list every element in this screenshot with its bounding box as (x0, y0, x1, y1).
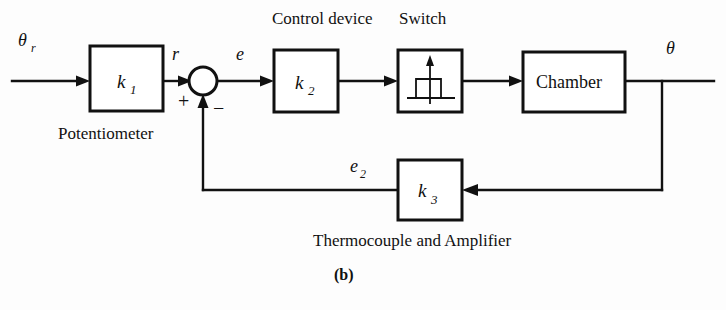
block-potentiometer[interactable]: k 1 (90, 46, 163, 111)
chamber-label: Chamber (536, 72, 602, 92)
summing-junction-circle[interactable] (189, 67, 217, 95)
summing-junction-minus-sign: − (213, 97, 224, 119)
potentiometer-caption: Potentiometer (58, 124, 154, 143)
arrowhead-into-thermocouple (462, 184, 478, 196)
potentiometer-gain-label: k (117, 71, 126, 92)
arrowhead-into-potentiometer (76, 76, 90, 87)
control-device-gain-label: k (295, 72, 304, 93)
signal-label-e2: e (350, 156, 358, 176)
potentiometer-box[interactable] (90, 46, 163, 111)
block-control-device[interactable]: k 2 (274, 50, 338, 112)
block-switch[interactable] (398, 50, 462, 112)
signal-label-input-subscript: r (31, 41, 36, 55)
switch-caption: Switch (399, 9, 447, 28)
arrowhead-into-chamber (509, 76, 523, 87)
signal-label-output: θ (666, 38, 675, 58)
block-thermocouple-amplifier[interactable]: k 3 (398, 160, 462, 220)
block-diagram-canvas: k 1 Potentiometer + − k 2 Control device (0, 0, 726, 310)
signal-label-r: r (172, 44, 180, 64)
control-device-caption: Control device (272, 9, 373, 28)
block-chamber[interactable]: Chamber (523, 52, 625, 112)
summing-junction-plus-sign: + (178, 90, 189, 112)
arrowhead-into-control-device (260, 76, 274, 87)
block-diagram-figure: k 1 Potentiometer + − k 2 Control device (0, 0, 726, 310)
thermocouple-caption: Thermocouple and Amplifier (313, 231, 512, 250)
thermocouple-gain-label: k (418, 180, 427, 201)
signal-label-input: θ (18, 30, 27, 50)
control-device-gain-subscript: 2 (308, 83, 315, 98)
thermocouple-gain-subscript: 3 (430, 192, 438, 207)
potentiometer-gain-subscript: 1 (130, 82, 137, 97)
signal-label-e2-subscript: 2 (360, 167, 366, 181)
thermocouple-box[interactable] (398, 160, 462, 220)
figure-label: (b) (334, 266, 354, 284)
summing-junction[interactable]: + − (178, 67, 224, 119)
signal-label-e: e (236, 44, 244, 64)
control-device-box[interactable] (274, 50, 338, 112)
arrowhead-into-switch (384, 76, 398, 87)
